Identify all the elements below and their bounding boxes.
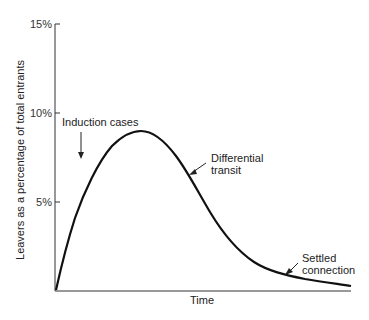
annotation-induction-cases: Induction cases bbox=[62, 116, 139, 128]
x-axis-title: Time bbox=[190, 294, 214, 306]
annotation-settled-line1: Settled bbox=[302, 252, 336, 264]
y-axis-title: Leavers as a percentage of total entrant… bbox=[14, 60, 26, 260]
annotation-differential-line2: transit bbox=[211, 164, 241, 176]
annotation-differential-line1: Differential bbox=[211, 152, 263, 164]
induction-arrow-head-icon bbox=[78, 152, 84, 159]
y-tick-label-10: 10% bbox=[30, 107, 52, 119]
chart: 15% 10% 5% Leavers as a percentage of to… bbox=[0, 0, 369, 320]
annotation-settled-line2: connection bbox=[302, 264, 355, 276]
settled-arrow-shaft bbox=[290, 263, 298, 271]
y-tick-label-15: 15% bbox=[30, 18, 52, 30]
y-tick-label-5: 5% bbox=[36, 196, 52, 208]
